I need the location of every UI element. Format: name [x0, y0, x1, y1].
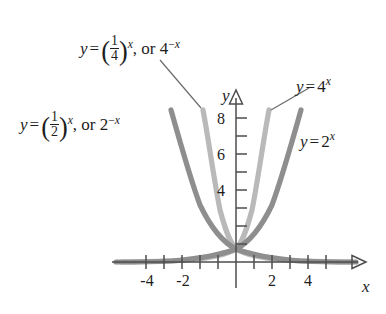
y-axis-label: y [222, 86, 230, 106]
annotation-two-base: 2 [321, 132, 330, 151]
x-tick-label-2: 2 [265, 272, 279, 290]
fraction-one-half: 12 [50, 110, 59, 139]
annotation-quarter-alt-base: 4 [160, 39, 169, 58]
fraction-one-quarter: 14 [110, 34, 119, 63]
annotation-two-exponent: x [330, 130, 335, 143]
annotation-half-equals: = [28, 115, 42, 134]
paren-close-half: ) [59, 113, 68, 142]
x-tick-label-minus4: -4 [138, 272, 156, 290]
annotation-two-var: y [300, 132, 308, 151]
paren-open-quarter: ( [101, 37, 110, 66]
annotation-half-var: y [20, 115, 28, 134]
x-tick-label-minus2: -2 [174, 272, 192, 290]
annotation-quarter-equals: = [88, 39, 102, 58]
annotation-two-equals: = [308, 132, 322, 151]
annotation-quarter-var: y [80, 39, 88, 58]
paren-close-quarter: ) [119, 37, 128, 66]
annotation-quarter-connector: , or [133, 39, 156, 58]
annotation-two-pow-x: y=2x [300, 133, 335, 150]
fraction-denominator: 2 [50, 124, 59, 139]
annotation-four-exponent: x [326, 75, 331, 88]
fraction-numerator: 1 [50, 110, 59, 124]
annotation-quarter-alt-exponent: −x [168, 38, 180, 51]
annotation-half-connector: , or [73, 115, 96, 134]
x-tick-label-4: 4 [301, 272, 315, 290]
annotation-half: y=(12)x, or 2−x [20, 110, 120, 139]
annotation-half-alt-base: 2 [100, 115, 109, 134]
alt-exponent-var: x [175, 38, 180, 51]
graph-canvas [0, 0, 386, 314]
fraction-numerator: 1 [110, 34, 119, 48]
x-axis-label: x [362, 277, 370, 297]
annotation-half-alt-exponent: −x [108, 114, 120, 127]
fraction-denominator: 4 [110, 48, 119, 63]
alt-exponent-var: x [115, 114, 120, 127]
y-tick-label-8: 8 [214, 110, 228, 128]
annotation-quarter: y=(14)x, or 4−x [80, 34, 180, 63]
y-tick-label-6: 6 [214, 146, 228, 164]
paren-open-half: ( [41, 113, 50, 142]
annotation-four-pow-x: y=4x [296, 78, 331, 95]
leader-line-quarter [160, 60, 201, 108]
y-tick-label-4: 4 [214, 182, 228, 200]
annotation-four-base: 4 [317, 77, 326, 96]
annotation-four-equals: = [304, 77, 318, 96]
exponential-functions-figure: y x -4 -2 2 4 8 6 4 y=(14)x, or 4−x y=(1… [0, 0, 386, 314]
annotation-four-var: y [296, 77, 304, 96]
